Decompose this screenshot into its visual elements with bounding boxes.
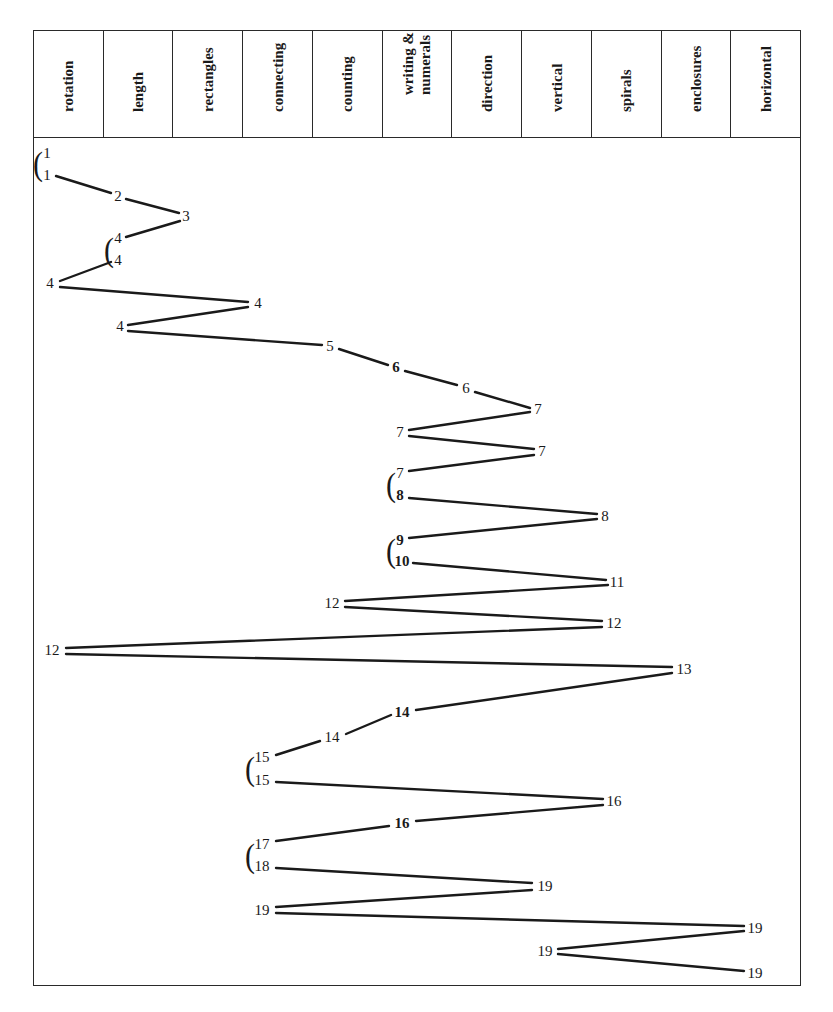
stage-node: 19: [255, 903, 270, 918]
stage-node: 8: [601, 509, 609, 524]
connector-line: [416, 805, 603, 821]
connector-line: [416, 673, 672, 710]
stage-node: 15: [255, 750, 270, 765]
connector-line: [558, 954, 744, 971]
stage-node: 3: [182, 209, 190, 224]
stage-node: 4: [46, 276, 54, 291]
stage-node: 18: [255, 859, 270, 874]
stage-node: 17: [255, 837, 270, 852]
connector-line: [409, 498, 597, 514]
connector-line: [66, 627, 602, 648]
stage-node: 10: [395, 554, 410, 569]
simultaneous-bracket-icon: (: [33, 146, 43, 181]
stage-node: 19: [748, 966, 763, 981]
connector-line: [409, 436, 534, 449]
connector-line: [66, 654, 672, 667]
stage-node: 4: [114, 253, 122, 268]
stage-node: 4: [116, 319, 124, 334]
connector-line: [409, 412, 530, 430]
stage-node: 7: [538, 444, 546, 459]
connector-line: [126, 199, 179, 213]
stage-node: 16: [607, 794, 622, 809]
stage-node: 19: [748, 921, 763, 936]
stage-node: 4: [254, 296, 262, 311]
stage-node: 7: [396, 466, 404, 481]
connector-line: [276, 782, 603, 799]
stage-node: 15: [255, 773, 270, 788]
connector-line: [558, 931, 744, 949]
connector-line: [405, 371, 457, 385]
connector-line: [413, 563, 606, 580]
stage-node: 13: [677, 662, 692, 677]
stage-node: 7: [534, 402, 542, 417]
simultaneous-bracket-icon: (: [245, 751, 255, 786]
connector-line: [128, 331, 322, 345]
connector-line: [276, 741, 320, 755]
stage-node: 11: [610, 575, 624, 590]
stage-node: 2: [114, 189, 122, 204]
stage-node: 14: [395, 705, 410, 720]
stage-node: 5: [326, 339, 334, 354]
connector-line: [339, 349, 388, 365]
connector-line: [345, 585, 608, 601]
stage-node: 9: [396, 533, 404, 548]
connector-line: [276, 868, 532, 883]
connector-line: [128, 307, 248, 325]
stage-node: 14: [325, 730, 340, 745]
stage-node: 12: [607, 616, 622, 631]
stage-node: 19: [538, 944, 553, 959]
connector-line: [56, 176, 111, 193]
connector-line: [409, 455, 534, 471]
stage-node: 7: [396, 425, 404, 440]
connector-line: [276, 890, 532, 907]
stage-node: 1: [43, 168, 51, 183]
stage-node: 12: [45, 643, 60, 658]
connector-line: [126, 221, 180, 237]
stage-node: 4: [114, 231, 122, 246]
simultaneous-bracket-icon: (: [104, 232, 114, 267]
stage-node: 19: [538, 879, 553, 894]
connector-line: [276, 913, 744, 926]
connector-line: [345, 607, 602, 621]
stage-node: 6: [392, 360, 400, 375]
stage-node: 1: [43, 146, 51, 161]
simultaneous-bracket-icon: (: [245, 838, 255, 873]
connector-line: [276, 826, 389, 841]
sequence-lines: [0, 0, 833, 1012]
simultaneous-bracket-icon: (: [386, 467, 396, 502]
connector-line: [409, 519, 597, 538]
connector-line: [475, 392, 530, 408]
stage-node: 6: [462, 381, 470, 396]
connector-line: [346, 715, 391, 734]
simultaneous-bracket-icon: (: [386, 533, 396, 568]
connector-line: [60, 287, 248, 302]
stage-node: 8: [396, 488, 404, 503]
stage-node: 12: [325, 596, 340, 611]
stage-node: 16: [395, 816, 410, 831]
